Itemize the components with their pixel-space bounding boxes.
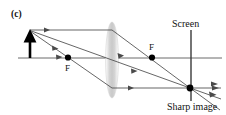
sharp-image-point: [187, 85, 194, 92]
screen-label: Screen: [172, 18, 199, 29]
optics-figure: (c) F F Screen Sharp image: [0, 0, 226, 115]
panel-label: (c): [11, 9, 22, 20]
focal-point-right-label: F: [149, 42, 154, 52]
ray-diagram-svg: (c) F F Screen Sharp image: [0, 0, 226, 115]
focal-point-left-label: F: [65, 63, 70, 73]
focal-point-right-dot: [149, 54, 155, 60]
sharp-image-label: Sharp image: [167, 101, 218, 112]
focal-point-left-dot: [65, 54, 71, 60]
